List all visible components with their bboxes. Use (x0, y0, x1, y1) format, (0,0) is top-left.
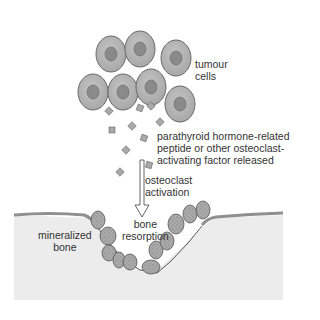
factor-particles (105, 102, 164, 176)
label-line: activation (145, 186, 192, 198)
label-line: peptide or other osteoclast- (157, 142, 290, 154)
label-line: cells (195, 70, 228, 82)
label-line: mineralized (38, 229, 92, 241)
label-osteoclast-activation: osteoclast activation (145, 174, 192, 198)
label-line: tumour (195, 58, 228, 70)
label-line: activating factor released (157, 154, 290, 166)
label-line: parathyroid hormone-related (157, 130, 290, 142)
label-line: bone (38, 241, 92, 253)
label-tumour-cells: tumour cells (195, 58, 228, 82)
label-line: bone (122, 218, 169, 230)
label-bone-resorption: bone resorption (122, 218, 169, 242)
label-line: resorption (122, 230, 169, 242)
label-line: osteoclast (145, 174, 192, 186)
label-mineralized-bone: mineralized bone (38, 229, 92, 253)
label-factor-released: parathyroid hormone-related peptide or o… (157, 130, 290, 166)
